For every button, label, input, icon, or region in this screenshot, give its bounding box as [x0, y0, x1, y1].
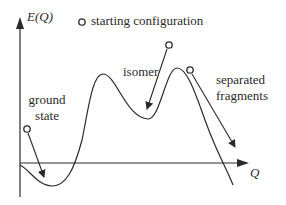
isomer-label: isomer: [123, 65, 158, 79]
y-axis: [16, 17, 24, 197]
y-axis-label: E(Q): [27, 10, 53, 24]
separated-fragments-label-line1: separated: [216, 73, 265, 87]
legend-open-circle-icon: [79, 19, 85, 25]
x-axis: [20, 159, 249, 167]
ground-start-circle-icon: [24, 126, 30, 132]
energy-curve: [20, 68, 233, 186]
y-axis-arrowhead-icon: [16, 17, 24, 29]
legend-label: starting configuration: [91, 14, 203, 28]
separated-fragments-label-line2: fragments: [216, 89, 268, 103]
x-axis-arrowhead-icon: [237, 159, 249, 167]
fragments-start-circle-icon: [187, 67, 193, 73]
energy-landscape-diagram: E(Q) starting configuration isomer separ…: [0, 0, 286, 205]
x-axis-label: Q: [250, 166, 259, 180]
ground-state-label-line1: ground: [22, 93, 72, 107]
isomer-start-circle-icon: [166, 42, 172, 48]
ground-state-label-line2: state: [22, 109, 72, 123]
